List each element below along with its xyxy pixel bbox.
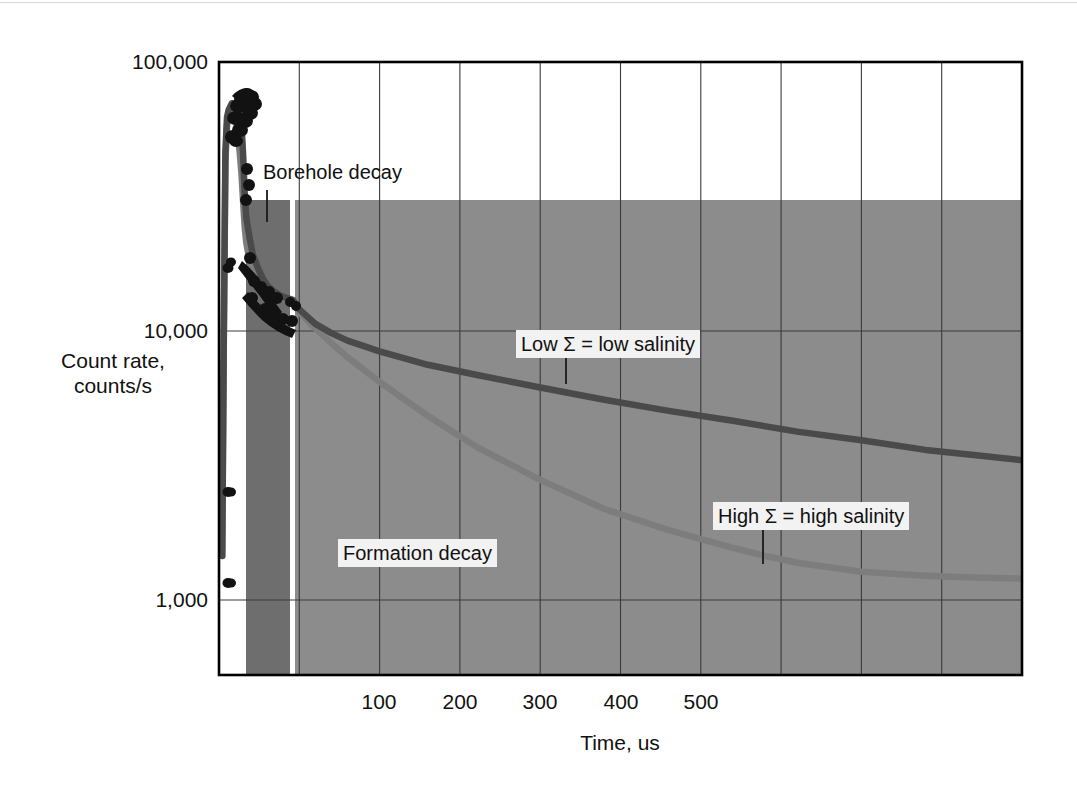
annotation-high-sigma: High Σ = high salinity	[713, 502, 909, 530]
y-axis-title: Count rate, counts/s	[18, 348, 208, 398]
x-axis-title: Time, us	[520, 731, 720, 755]
figure-container: 100,000 10,000 1,000 Count rate, counts/…	[0, 0, 1077, 787]
annotation-formation-decay: Formation decay	[338, 539, 497, 567]
x-tick-label-300: 300	[500, 690, 580, 714]
annotation-low-sigma: Low Σ = low salinity	[516, 330, 700, 358]
y-tick-label-10000: 10,000	[60, 319, 208, 343]
x-tick-label-100: 100	[339, 690, 419, 714]
x-tick-label-400: 400	[581, 690, 661, 714]
x-tick-label-500: 500	[661, 690, 741, 714]
y-tick-label-100000: 100,000	[60, 50, 208, 74]
x-tick-label-200: 200	[420, 690, 500, 714]
formation-decay-band	[295, 200, 1022, 675]
annotation-borehole-decay: Borehole decay	[258, 158, 407, 186]
y-tick-label-1000: 1,000	[60, 588, 208, 612]
y-axis-title-line1: Count rate,	[18, 348, 208, 373]
y-axis-title-line2: counts/s	[18, 373, 208, 398]
